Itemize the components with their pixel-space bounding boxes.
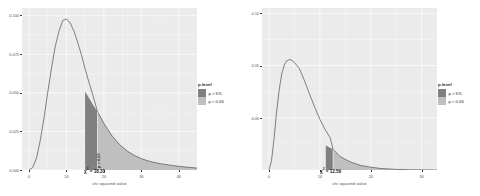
ytick-mark-left-0 bbox=[20, 170, 22, 171]
ytick-mark-left-1 bbox=[20, 131, 22, 132]
ytick-mark-right-1 bbox=[260, 66, 262, 67]
density-curve-right bbox=[269, 60, 437, 170]
legend-swatch-significant-left bbox=[198, 89, 206, 97]
legend-item-left-1[interactable]: p < 0.05 bbox=[198, 97, 224, 105]
xtick-mark-left-3 bbox=[141, 170, 142, 172]
gridlines-right bbox=[262, 8, 437, 170]
legend-swatch-nonsignificant-left bbox=[198, 97, 206, 105]
legend-item-right-0[interactable]: p > 5% bbox=[438, 89, 464, 97]
chi-exponent-left: 2 bbox=[87, 167, 89, 171]
ytick-label-left-4: 0.100 bbox=[2, 13, 19, 18]
xtick-label-left-0: 0 bbox=[19, 174, 39, 179]
legend-swatch-nonsignificant-right bbox=[438, 97, 446, 105]
xtick-label-right-0: 0 bbox=[259, 174, 279, 179]
xtick-mark-left-4 bbox=[179, 170, 180, 172]
chi-critical-annotation-right: χ2 = 12.59 bbox=[320, 167, 341, 174]
xtick-mark-right-2 bbox=[371, 170, 372, 172]
chi-value-left: = 18.31 bbox=[90, 168, 105, 173]
xtick-mark-left-0 bbox=[29, 170, 30, 172]
ytick-label-right-2: 0.10 bbox=[242, 11, 259, 16]
xaxis-title-left: chi squared value bbox=[22, 181, 197, 186]
xtick-label-right-2: 20 bbox=[361, 174, 381, 179]
xtick-label-left-1: 10 bbox=[56, 174, 76, 179]
legend-label-right-0: p > 5% bbox=[449, 91, 462, 96]
ytick-mark-left-3 bbox=[20, 54, 22, 55]
legend-label-left-1: p < 0.05 bbox=[209, 99, 224, 104]
plot-svg-right bbox=[262, 8, 437, 170]
area-nonsignificant-left bbox=[98, 112, 198, 170]
plot-svg-left bbox=[22, 8, 197, 170]
legend-label-right-1: p < 0.05 bbox=[449, 99, 464, 104]
chi-value-right: = 12.59 bbox=[326, 168, 341, 173]
chi-exponent-right: 2 bbox=[323, 167, 325, 171]
legend-item-right-1[interactable]: p < 0.05 bbox=[438, 97, 464, 105]
legend-left: p.level p > 5% p < 0.05 bbox=[198, 82, 224, 105]
ytick-mark-right-0 bbox=[260, 118, 262, 119]
ytick-label-left-0: 0.000 bbox=[2, 168, 19, 173]
xtick-label-left-4: 40 bbox=[169, 174, 189, 179]
ytick-mark-right-2 bbox=[260, 13, 262, 14]
chart-panel-right: p.level p > 5% p < 0.05 bbox=[240, 0, 480, 196]
ytick-label-right-1: 0.05 bbox=[242, 63, 259, 68]
xtick-label-right-1: 10 bbox=[310, 174, 330, 179]
chi-critical-annotation-left: χ2 = 18.31 bbox=[84, 167, 105, 174]
plot-area-right bbox=[262, 8, 437, 170]
legend-title-right: p.level bbox=[438, 82, 464, 87]
ytick-label-left-1: 0.025 bbox=[2, 129, 19, 134]
chi-squared-figure: 0.100 0.075 0.050 0.025 0.000 0 10 20 30… bbox=[0, 0, 480, 196]
legend-title-left: p.level bbox=[198, 82, 224, 87]
xtick-mark-right-3 bbox=[422, 170, 423, 172]
ytick-mark-left-4 bbox=[20, 15, 22, 16]
legend-swatch-significant-right bbox=[438, 89, 446, 97]
plot-area-left bbox=[22, 8, 197, 170]
xaxis-title-right: chi squared value bbox=[262, 181, 437, 186]
xtick-mark-left-1 bbox=[66, 170, 67, 172]
ytick-label-right-0: 0.00 bbox=[242, 116, 259, 121]
xtick-label-right-3: 30 bbox=[412, 174, 432, 179]
legend-right: p.level p > 5% p < 0.05 bbox=[438, 82, 464, 105]
xtick-label-left-3: 30 bbox=[131, 174, 151, 179]
legend-label-left-0: p > 5% bbox=[209, 91, 222, 96]
legend-item-left-0[interactable]: p > 5% bbox=[198, 89, 224, 97]
xtick-mark-right-0 bbox=[269, 170, 270, 172]
xtick-label-left-2: 20 bbox=[94, 174, 114, 179]
ytick-mark-left-2 bbox=[20, 93, 22, 94]
ytick-label-left-3: 0.075 bbox=[2, 52, 19, 57]
ytick-label-left-2: 0.050 bbox=[2, 90, 19, 95]
